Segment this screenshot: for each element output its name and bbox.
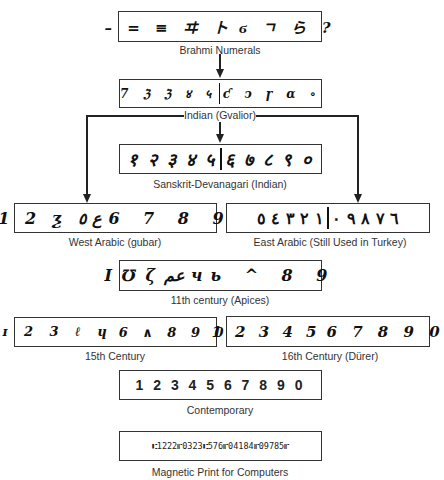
apices-digits-6-9: ь ^ 8 9 bbox=[211, 261, 337, 290]
sanskrit-digits-1-5: १ २ ३ ४ ५ bbox=[128, 145, 216, 173]
arrow-down-icon bbox=[354, 194, 362, 203]
node-11th-century-apices: I ℧ ζ عم ч ь ^ 8 9 bbox=[119, 260, 322, 291]
node-brahmi: – = ≡ ヰ ト ϭ ㄱ ら ? bbox=[118, 11, 322, 42]
edge-indian-sanskrit bbox=[219, 122, 221, 134]
edge-brahmi-indian bbox=[219, 54, 221, 70]
label-magnetic-print: Magnetic Print for Computers bbox=[152, 466, 289, 478]
contemporary-digits: 1 2 3 4 5 6 7 8 9 0 bbox=[136, 377, 306, 393]
sanskrit-digits-6-0: ६ ७ ८ ९ ० bbox=[225, 145, 313, 173]
west-arabic-digits-1-5: 1 2 ƺ ع ٥ bbox=[0, 204, 102, 232]
arrow-down-icon bbox=[216, 134, 224, 143]
c16-digits-6-0: 6 7 8 9 0 bbox=[327, 317, 444, 346]
magnetic-digits: ⑆1222⑈0323⑆576⑈04184⑈09785⑈ bbox=[152, 441, 289, 451]
node-contemporary: 1 2 3 4 5 6 7 8 9 0 bbox=[119, 370, 322, 400]
label-west-arabic: West Arabic (gubar) bbox=[69, 236, 162, 248]
label-contemporary: Contemporary bbox=[187, 404, 254, 416]
label-east-arabic: East Arabic (Still Used in Turkey) bbox=[254, 236, 407, 248]
label-11th-century: 11th century (Apices) bbox=[171, 294, 269, 306]
east-arabic-digits-6-0: ٦ ٧ ٨ ٩ ٠ bbox=[332, 204, 399, 232]
edge-indian-west-horizontal bbox=[86, 115, 184, 117]
node-15th-century: ɪ 2 3 ℓ ɥ 6 ∧ 8 9 0 bbox=[14, 317, 217, 347]
divider bbox=[220, 148, 222, 170]
node-indian-gvalior: 7 ℨ ℨ ४ ५ ƈ ↄ ɼ ɑ ∘ bbox=[119, 79, 322, 108]
east-arabic-digits-1-5: ١ ٢ ٣ ٤ ٥ bbox=[257, 204, 324, 232]
indian-digits-6-0: ƈ ↄ ɼ ɑ ∘ bbox=[223, 80, 321, 107]
label-brahmi: Brahmi Numerals bbox=[179, 44, 260, 56]
apices-digits-1-5: I ℧ ζ عم ч bbox=[105, 261, 205, 290]
indian-digits-1-5: 7 ℨ ℨ ४ ५ bbox=[120, 80, 216, 107]
label-sanskrit-devanagari: Sanskrit-Devanagari (Indian) bbox=[153, 178, 287, 190]
node-sanskrit-devanagari: १ २ ३ ४ ५ ६ ७ ८ ९ ० bbox=[119, 144, 322, 174]
edge-indian-west-vertical bbox=[86, 115, 88, 197]
divider bbox=[219, 83, 220, 104]
label-16th-century: 16th Century (Dürer) bbox=[282, 350, 378, 362]
arrow-down-icon bbox=[83, 194, 91, 203]
node-16th-century-durer: 1 2 3 4 5 6 7 8 9 0 bbox=[226, 316, 430, 347]
west-arabic-digits-6-9: 6 7 8 9 bbox=[108, 204, 232, 232]
c15-digits-1-5: ɪ 2 3 ℓ ɥ bbox=[3, 318, 113, 346]
edge-indian-east-vertical bbox=[357, 115, 359, 197]
node-magnetic-print: ⑆1222⑈0323⑆576⑈04184⑈09785⑈ bbox=[119, 431, 322, 461]
edge-indian-east-horizontal bbox=[256, 115, 358, 117]
arrow-down-icon bbox=[216, 69, 224, 78]
brahmi-digits-6-9: ϭ ㄱ ら ? bbox=[239, 12, 335, 41]
brahmi-digits-1-5: – = ≡ ヰ ト bbox=[105, 12, 234, 41]
node-east-arabic: ١ ٢ ٣ ٤ ٥ ٦ ٧ ٨ ٩ ٠ bbox=[226, 203, 430, 233]
label-15th-century: 15th Century bbox=[85, 350, 145, 362]
c16-digits-1-5: 1 2 3 4 5 bbox=[211, 317, 320, 346]
node-west-arabic: 1 2 ƺ ع ٥ 6 7 8 9 bbox=[14, 203, 217, 233]
label-indian-gvalior: Indian (Gvalior) bbox=[184, 109, 256, 121]
divider bbox=[327, 207, 329, 229]
